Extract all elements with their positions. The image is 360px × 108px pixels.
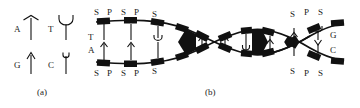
nucleotide-label-a: A [14, 25, 21, 34]
dna-figure: A T G C (a) T A G C S P S P S S P S P S … [0, 0, 360, 108]
helix-base-label-c: C [330, 46, 336, 55]
backbone-label-top-right-1: P [304, 8, 309, 17]
backbone-label-top-left-1: P [107, 8, 112, 17]
nucleotide-c-icon [63, 53, 69, 75]
backbone-label-bottom-right-2: S [318, 69, 323, 78]
helix-base-label-g: G [330, 31, 337, 40]
nucleotide-a-icon [24, 16, 39, 41]
backbone-label-bottom-left-3: P [134, 69, 139, 78]
backbone-label-top-right-2: S [318, 8, 323, 17]
backbone-label-bottom-right-0: S [290, 67, 295, 76]
helix-base-label-a: A [88, 46, 95, 55]
nucleotide-t-icon [59, 15, 73, 40]
panel-a-caption: (a) [37, 88, 47, 97]
backbone-label-bottom-left-2: S [121, 69, 126, 78]
helix-base-label-t: T [88, 33, 94, 42]
backbone-label-bottom-left-4: S [152, 67, 157, 76]
backbone-label-bottom-left-0: S [94, 69, 99, 78]
backbone-label-top-right-0: S [290, 10, 295, 19]
backbone-label-top-left-4: S [152, 10, 157, 19]
backbone-label-bottom-right-1: P [304, 69, 309, 78]
nucleotide-label-t: T [48, 25, 54, 34]
helix-crossing-points [178, 29, 268, 55]
backbone-label-top-left-0: S [94, 8, 99, 17]
backbone-label-top-left-3: P [134, 8, 139, 17]
backbone-label-bottom-left-1: P [107, 69, 112, 78]
base-pair-connectors-left [101, 24, 163, 60]
nucleotide-label-c: C [48, 61, 54, 70]
nucleotide-g-icon [27, 53, 35, 75]
backbone-label-top-left-2: S [121, 8, 126, 17]
nucleotide-label-g: G [14, 61, 21, 70]
panel-b-caption: (b) [205, 88, 216, 97]
